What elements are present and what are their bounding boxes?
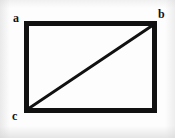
vertex-label-c: c — [12, 110, 17, 122]
vertex-label-b: b — [158, 8, 165, 20]
diagram-canvas — [0, 0, 175, 138]
diagonal-c-to-b — [28, 25, 153, 109]
geometry-figure: a b c — [0, 0, 175, 138]
vertex-label-a: a — [13, 12, 19, 24]
